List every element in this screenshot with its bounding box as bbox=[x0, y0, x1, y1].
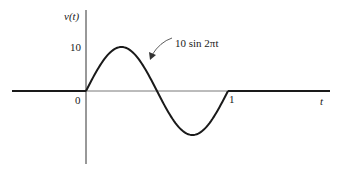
annotation-arrow-line bbox=[152, 38, 172, 55]
x-axis-label: t bbox=[320, 95, 324, 107]
curve-annotation: 10 sin 2πt bbox=[175, 37, 218, 49]
annotation-arrowhead-icon bbox=[149, 52, 156, 60]
sine-pulse-chart: v(t) 10 0 1 t 10 sin 2πt bbox=[0, 0, 343, 176]
x-tick-label-1: 1 bbox=[229, 93, 235, 105]
y-axis-label: v(t) bbox=[64, 10, 80, 23]
y-tick-label-10: 10 bbox=[70, 41, 82, 53]
x-tick-label-0: 0 bbox=[75, 94, 81, 106]
